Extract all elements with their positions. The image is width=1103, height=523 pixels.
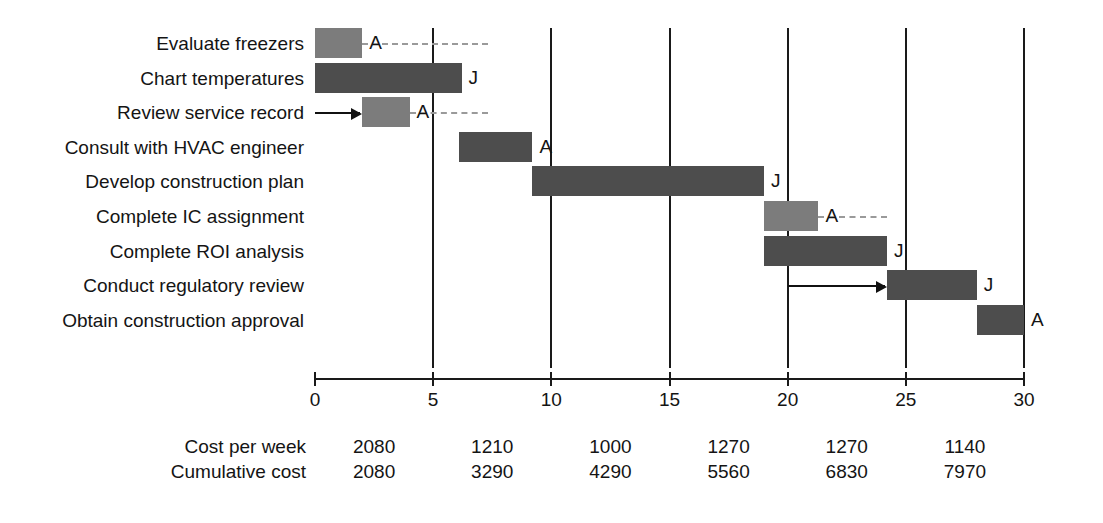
x-axis-tick: [1023, 372, 1025, 386]
x-axis-tick-label: 10: [541, 390, 562, 409]
task-label: Consult with HVAC engineer: [0, 138, 306, 157]
bar-resource-tag: J: [894, 241, 904, 260]
cumulative-cost-row: Cumulative cost 208032904290556068307970: [0, 462, 1103, 487]
task-label: Complete IC assignment: [0, 207, 306, 226]
gantt-chart: Evaluate freezersChart temperaturesRevie…: [0, 0, 1103, 523]
bar-resource-tag: J: [771, 171, 781, 190]
bar-resource-tag: A: [1031, 310, 1044, 329]
task-label: Develop construction plan: [0, 172, 306, 191]
cost-per-week-cell: 1270: [707, 437, 749, 456]
cumulative-cost-cell: 5560: [707, 462, 749, 481]
dependency-arrow: [315, 112, 360, 114]
bar-resource-tag: J: [984, 275, 994, 294]
cost-per-week-cell: 2080: [353, 437, 395, 456]
cost-table: Cost per week 208012101000127012701140 C…: [0, 437, 1103, 487]
x-axis-tick-label: 0: [310, 390, 321, 409]
gridline-week-25: [905, 28, 907, 368]
gridline-week-20: [787, 28, 789, 368]
bar-resource-tag: J: [469, 68, 479, 87]
x-axis-tick-label: 20: [777, 390, 798, 409]
dependency-arrow: [788, 285, 885, 287]
gantt-bar[interactable]: [459, 132, 532, 162]
cumulative-cost-cell: 2080: [353, 462, 395, 481]
x-axis-tick: [905, 372, 907, 386]
x-axis-tick: [314, 372, 316, 386]
task-label: Review service record: [0, 103, 306, 122]
x-axis-tick-label: 15: [659, 390, 680, 409]
gantt-bar[interactable]: [532, 166, 764, 196]
cumulative-cost-cell: 6830: [826, 462, 868, 481]
x-axis-tick: [550, 372, 552, 386]
gantt-plot-area: AJAAJAJJA: [315, 28, 1024, 368]
bar-resource-tag: A: [417, 102, 430, 121]
task-label: Complete ROI analysis: [0, 242, 306, 261]
gantt-bar[interactable]: [362, 97, 409, 127]
cost-per-week-row: Cost per week 208012101000127012701140: [0, 437, 1103, 462]
bar-resource-tag: A: [825, 206, 838, 225]
task-label: Conduct regulatory review: [0, 276, 306, 295]
gantt-bar[interactable]: [887, 270, 977, 300]
task-label: Chart temperatures: [0, 69, 306, 88]
cumulative-cost-label: Cumulative cost: [0, 462, 308, 481]
cumulative-cost-cell: 3290: [471, 462, 513, 481]
cost-per-week-label: Cost per week: [0, 437, 308, 456]
x-axis-tick-label: 5: [428, 390, 439, 409]
x-axis-tick-label: 25: [895, 390, 916, 409]
bar-resource-tag: A: [539, 137, 552, 156]
gantt-bar[interactable]: [764, 201, 818, 231]
gridline-week-10: [550, 28, 552, 368]
x-axis: 051015202530: [315, 378, 1024, 379]
cost-per-week-cell: 1140: [944, 437, 985, 456]
x-axis-tick: [669, 372, 671, 386]
gantt-bar[interactable]: [315, 28, 362, 58]
bar-resource-tag: A: [369, 33, 382, 52]
gantt-bar[interactable]: [315, 63, 462, 93]
x-axis-tick: [787, 372, 789, 386]
x-axis-tick: [432, 372, 434, 386]
cumulative-cost-cell: 7970: [944, 462, 986, 481]
gantt-bar[interactable]: [764, 236, 887, 266]
gridline-week-15: [669, 28, 671, 368]
cost-per-week-cell: 1210: [471, 437, 513, 456]
cost-per-week-cell: 1000: [589, 437, 631, 456]
gantt-bar[interactable]: [977, 305, 1024, 335]
task-label: Obtain construction approval: [0, 311, 306, 330]
cost-per-week-cell: 1270: [826, 437, 868, 456]
cumulative-cost-cell: 4290: [589, 462, 631, 481]
x-axis-tick-label: 30: [1013, 390, 1034, 409]
task-label: Evaluate freezers: [0, 34, 306, 53]
